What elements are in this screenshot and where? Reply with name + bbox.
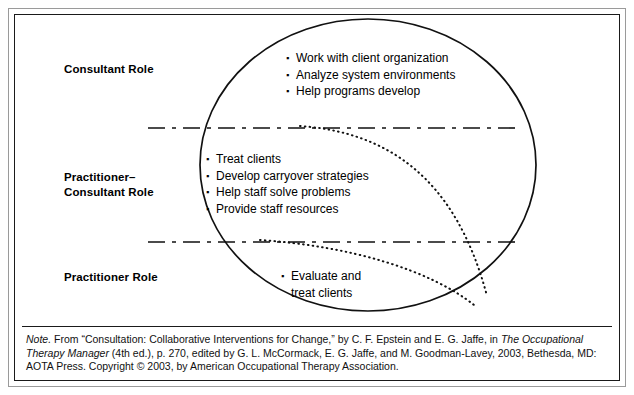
list-item: ▪ Help staff solve problems <box>206 184 369 201</box>
bullet-square-icon: ▪ <box>286 50 296 67</box>
role-label-consultant: Consultant Role <box>64 62 154 77</box>
role-label-practitioner-consultant: Practitioner– Consultant Role <box>64 170 154 200</box>
list-item: ▪ Treat clients <box>206 151 369 168</box>
note-label: Note. <box>26 333 51 345</box>
note-source-title-part2: Manager <box>67 347 108 359</box>
bullet-square-icon: ▪ <box>281 268 291 285</box>
list-item: ▪ Evaluate and treat clients <box>281 268 361 301</box>
bullet-square-icon: ▪ <box>206 151 216 168</box>
list-item: ▪ Provide staff resources <box>206 201 369 218</box>
bullet-square-icon: ▪ <box>206 168 216 185</box>
note-separator-rule <box>22 326 612 327</box>
list-item: ▪ Help programs develop <box>286 83 455 100</box>
source-note: Note. From “Consultation: Collaborative … <box>26 333 608 374</box>
list-item: ▪ Work with client organization <box>286 50 455 67</box>
bullet-list-consultant: ▪ Work with client organization ▪ Analyz… <box>286 50 455 100</box>
figure-container: Consultant Role Practitioner– Consultant… <box>0 0 634 395</box>
list-item-label: Evaluate and treat clients <box>291 268 361 301</box>
bullet-list-practitioner-consultant: ▪ Treat clients ▪ Develop carryover stra… <box>206 151 369 217</box>
list-item-label: Help programs develop <box>296 83 420 100</box>
bullet-square-icon: ▪ <box>286 83 296 100</box>
list-item-label: Provide staff resources <box>216 201 339 218</box>
note-body: Note. From “Consultation: Collaborative … <box>26 333 596 372</box>
role-label-practitioner: Practitioner Role <box>64 270 158 285</box>
bullet-square-icon: ▪ <box>206 184 216 201</box>
list-item-label: Analyze system environments <box>296 67 455 84</box>
list-item-label: Help staff solve problems <box>216 184 351 201</box>
bullet-list-practitioner: ▪ Evaluate and treat clients <box>281 268 361 301</box>
bullet-square-icon: ▪ <box>286 67 296 84</box>
bullet-square-icon: ▪ <box>206 201 216 218</box>
list-item-label: Develop carryover strategies <box>216 168 369 185</box>
list-item-label: Treat clients <box>216 151 281 168</box>
list-item: ▪ Develop carryover strategies <box>206 168 369 185</box>
note-copyright: Copyright © 2003, by American Occupation… <box>89 360 399 372</box>
list-item: ▪ Analyze system environments <box>286 67 455 84</box>
list-item-label: Work with client organization <box>296 50 449 67</box>
note-text-part1: From “Consultation: Collaborative Interv… <box>51 333 501 345</box>
